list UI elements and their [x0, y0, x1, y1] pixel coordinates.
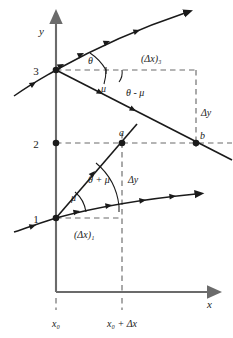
node-point-a: [119, 140, 126, 147]
figure-canvas: y x 3 2 1 a b θ μ θ - μ μ θ + μ (Δx)₃ (Δ…: [0, 0, 233, 338]
dimension-label-dy-lower: Δy: [127, 174, 139, 185]
x-tick-label-x0-plus-dx: x₀ + Δx: [106, 318, 138, 329]
node-point-1: [53, 215, 60, 222]
node-point-3: [53, 67, 60, 74]
point-label-3: 3: [33, 65, 39, 77]
angle-label-theta: θ: [88, 55, 93, 66]
x-axis-label: x: [206, 298, 212, 310]
point-label-1: 1: [33, 213, 39, 225]
node-point-b: [193, 140, 200, 147]
node-point-2: [53, 140, 60, 147]
point-label-a: a: [119, 127, 124, 138]
background: [0, 0, 233, 338]
point-label-b: b: [200, 130, 205, 141]
angle-label-theta-plus-mu: θ + μ: [88, 174, 110, 185]
dimension-label-dx3: (Δx)₃: [141, 53, 162, 65]
x-tick-label-x0: x₀: [51, 318, 60, 329]
dimension-label-dx1: (Δx)₁: [74, 229, 94, 241]
angle-label-mu-top: μ: [100, 83, 106, 94]
angle-label-mu-bottom: μ: [70, 192, 76, 203]
point-label-2: 2: [33, 138, 39, 150]
y-axis-label: y: [38, 25, 44, 37]
angle-label-theta-minus-mu: θ - μ: [126, 87, 144, 98]
dimension-label-dy-upper: Δy: [200, 107, 212, 118]
method-of-characteristics-diagram: y x 3 2 1 a b θ μ θ - μ μ θ + μ (Δx)₃ (Δ…: [0, 0, 233, 338]
